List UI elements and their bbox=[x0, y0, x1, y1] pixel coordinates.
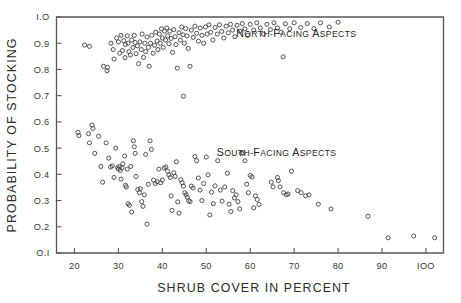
data-point bbox=[211, 202, 215, 206]
data-point bbox=[181, 33, 185, 37]
data-point bbox=[87, 132, 91, 136]
data-point bbox=[236, 200, 240, 204]
data-point bbox=[231, 189, 235, 193]
data-point bbox=[175, 66, 179, 70]
data-points bbox=[76, 20, 437, 240]
axis-frame bbox=[57, 17, 444, 253]
data-point bbox=[207, 23, 211, 27]
data-point bbox=[173, 174, 177, 178]
data-point bbox=[202, 41, 206, 45]
data-point bbox=[132, 33, 136, 37]
data-point bbox=[227, 202, 231, 206]
data-point bbox=[119, 177, 123, 181]
data-point bbox=[135, 44, 139, 48]
data-point bbox=[386, 236, 390, 240]
data-point bbox=[138, 40, 142, 44]
data-point bbox=[176, 200, 180, 204]
data-point bbox=[292, 21, 296, 25]
figure: 2030405060708090IOO O.IO.2O.3O.4O.5O.6O.… bbox=[0, 0, 461, 303]
data-point bbox=[198, 26, 202, 30]
data-point bbox=[272, 21, 276, 25]
data-point bbox=[123, 154, 127, 158]
data-point bbox=[216, 159, 220, 163]
data-point bbox=[316, 202, 320, 206]
data-point bbox=[200, 199, 204, 203]
data-point bbox=[97, 134, 101, 138]
data-point bbox=[281, 55, 285, 59]
y-tick-label: O.3 bbox=[34, 196, 50, 206]
data-point bbox=[223, 185, 227, 189]
data-point bbox=[269, 180, 273, 184]
data-point bbox=[193, 154, 197, 158]
data-point bbox=[248, 22, 252, 26]
x-axis-ticks: 2030405060708090IOO bbox=[69, 248, 435, 271]
y-tick-label: O.6 bbox=[34, 117, 50, 127]
data-point bbox=[151, 51, 155, 55]
data-point bbox=[119, 33, 123, 37]
plot-frame bbox=[57, 17, 444, 253]
data-point bbox=[225, 171, 229, 175]
data-point bbox=[125, 34, 129, 38]
data-point bbox=[243, 159, 247, 163]
data-point bbox=[144, 50, 148, 54]
data-point bbox=[200, 33, 204, 37]
data-point bbox=[152, 43, 156, 47]
data-point bbox=[138, 187, 142, 191]
x-tick-label: 30 bbox=[113, 261, 124, 271]
x-tick-label: 80 bbox=[333, 261, 344, 271]
data-point bbox=[133, 151, 137, 155]
data-point bbox=[177, 31, 181, 35]
data-point bbox=[140, 200, 144, 204]
data-point bbox=[336, 20, 340, 24]
data-point bbox=[217, 23, 221, 27]
data-point bbox=[366, 214, 370, 218]
data-point bbox=[220, 199, 224, 203]
data-point bbox=[246, 191, 250, 195]
data-point bbox=[141, 55, 145, 59]
data-point bbox=[433, 236, 437, 240]
data-point bbox=[226, 31, 230, 35]
data-point bbox=[215, 32, 219, 36]
scatter-plot: 2030405060708090IOO O.IO.2O.3O.4O.5O.6O.… bbox=[0, 0, 461, 303]
data-point bbox=[161, 45, 165, 49]
y-tick-label: O.7 bbox=[34, 91, 50, 101]
y-tick-label: O.8 bbox=[34, 65, 50, 75]
data-point bbox=[299, 191, 303, 195]
data-point bbox=[185, 34, 189, 38]
data-point bbox=[305, 22, 309, 26]
x-tick-label: 20 bbox=[69, 261, 80, 271]
data-point bbox=[134, 52, 138, 56]
data-point bbox=[195, 159, 199, 163]
data-point bbox=[283, 22, 287, 26]
data-point bbox=[130, 210, 134, 214]
data-point bbox=[186, 46, 190, 50]
data-point bbox=[121, 162, 125, 166]
data-point bbox=[167, 42, 171, 46]
data-point bbox=[184, 26, 188, 30]
y-tick-label: O.9 bbox=[34, 39, 50, 49]
data-point bbox=[93, 151, 97, 155]
south-facing-label: SOUTH-FACING ASPECTS bbox=[217, 146, 337, 158]
x-tick-label: 60 bbox=[245, 261, 256, 271]
data-point bbox=[101, 64, 105, 68]
series-annotations: NORTH-FACING ASPECTSSOUTH-FACING ASPECTS bbox=[217, 27, 357, 158]
data-point bbox=[412, 234, 416, 238]
data-point bbox=[132, 145, 136, 149]
data-point bbox=[107, 156, 111, 160]
data-point bbox=[104, 141, 108, 145]
data-point bbox=[265, 22, 269, 26]
data-point bbox=[148, 139, 152, 143]
data-point bbox=[163, 38, 167, 42]
data-point bbox=[180, 25, 184, 29]
data-point bbox=[157, 167, 161, 171]
data-point bbox=[156, 47, 160, 51]
data-point bbox=[147, 64, 151, 68]
data-point bbox=[224, 24, 228, 28]
data-point bbox=[131, 139, 135, 143]
series-south-facing-aspects bbox=[76, 123, 437, 240]
data-point bbox=[213, 184, 217, 188]
data-point bbox=[112, 57, 116, 61]
data-point bbox=[87, 44, 91, 48]
data-point bbox=[129, 164, 133, 168]
data-point bbox=[196, 176, 200, 180]
